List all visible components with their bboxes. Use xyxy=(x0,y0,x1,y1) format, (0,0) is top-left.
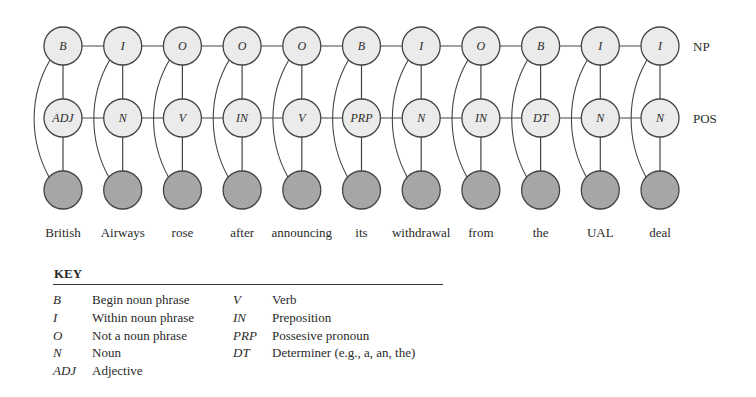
word-label: deal xyxy=(649,225,671,240)
key-code: B xyxy=(53,291,92,309)
word-label: after xyxy=(230,225,254,240)
word-label: UAL xyxy=(587,225,614,240)
nodes: BADJBritishINAirwaysOVroseOINafterOVanno… xyxy=(44,27,679,240)
observed-word-node xyxy=(163,171,201,209)
observed-word-node xyxy=(223,171,261,209)
word-label: Airways xyxy=(101,225,145,240)
pos-node-label: IN xyxy=(474,111,488,125)
word-label: the xyxy=(533,225,549,240)
key-desc: Possesive pronoun xyxy=(272,327,369,345)
np-node-label: B xyxy=(358,39,366,53)
word-label: rose xyxy=(172,225,194,240)
observed-word-node xyxy=(343,171,381,209)
key-row-n: NNoun xyxy=(53,344,194,362)
pos-node-label: ADJ xyxy=(51,111,74,125)
pos-node-label: N xyxy=(595,111,605,125)
key-desc: Not a noun phrase xyxy=(92,327,187,345)
key-code: O xyxy=(53,327,92,345)
np-node-label: O xyxy=(178,39,187,53)
key-row-prp: PRPPossesive pronoun xyxy=(233,327,415,345)
key-divider xyxy=(53,284,443,285)
key-code: PRP xyxy=(233,327,272,345)
key-desc: Verb xyxy=(272,291,297,309)
observed-word-node xyxy=(104,171,142,209)
np-row-label: NP xyxy=(693,39,710,54)
key-desc: Preposition xyxy=(272,309,331,327)
key-desc: Adjective xyxy=(92,362,143,380)
key-desc: Within noun phrase xyxy=(92,309,194,327)
key-row-adj: ADJAdjective xyxy=(53,362,194,380)
np-node-label: O xyxy=(297,39,306,53)
word-label: from xyxy=(468,225,493,240)
key-code: N xyxy=(53,344,92,362)
np-node-label: B xyxy=(59,39,67,53)
key-row-o: ONot a noun phrase xyxy=(53,327,194,345)
key-row-i: IWithin noun phrase xyxy=(53,309,194,327)
observed-word-node xyxy=(641,171,679,209)
observed-word-node xyxy=(462,171,500,209)
pos-node-label: IN xyxy=(235,111,249,125)
key-code: DT xyxy=(233,344,272,362)
pos-node-label: PRP xyxy=(350,111,374,125)
key-row-v: VVerb xyxy=(233,291,415,309)
key-code: IN xyxy=(233,309,272,327)
observed-word-node xyxy=(44,171,82,209)
word-label: British xyxy=(45,225,81,240)
pos-node-label: N xyxy=(118,111,128,125)
key-code: ADJ xyxy=(53,362,92,380)
key-column-right: VVerb INPreposition PRPPossesive pronoun… xyxy=(233,291,415,362)
key-row-dt: DTDeterminer (e.g., a, an, the) xyxy=(233,344,415,362)
key-desc: Determiner (e.g., a, an, the) xyxy=(272,344,415,362)
np-node-label: O xyxy=(477,39,486,53)
key-row-b: BBegin noun phrase xyxy=(53,291,194,309)
key-column-left: BBegin noun phrase IWithin noun phrase O… xyxy=(53,291,194,380)
pos-node-label: DT xyxy=(532,111,550,125)
word-label: announcing xyxy=(271,225,332,240)
word-label: its xyxy=(355,225,367,240)
np-node-label: O xyxy=(238,39,247,53)
np-node-label: B xyxy=(537,39,545,53)
observed-word-node xyxy=(402,171,440,209)
key-desc: Begin noun phrase xyxy=(92,291,189,309)
key-code: I xyxy=(53,309,92,327)
crf-graphical-model: BADJBritishINAirwaysOVroseOINafterOVanno… xyxy=(0,0,756,260)
key-row-in: INPreposition xyxy=(233,309,415,327)
word-label: withdrawal xyxy=(392,225,451,240)
observed-word-node xyxy=(522,171,560,209)
pos-row-label: POS xyxy=(693,111,717,126)
key-legend: KEY BBegin noun phrase IWithin noun phra… xyxy=(53,264,443,291)
key-desc: Noun xyxy=(92,344,121,362)
key-title: KEY xyxy=(53,264,443,284)
key-code: V xyxy=(233,291,272,309)
pos-node-label: N xyxy=(416,111,426,125)
pos-node-label: N xyxy=(655,111,665,125)
observed-word-node xyxy=(581,171,619,209)
observed-word-node xyxy=(283,171,321,209)
